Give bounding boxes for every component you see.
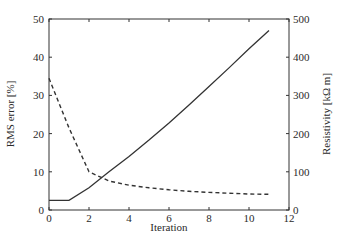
x-tick-label: 8 (206, 212, 212, 224)
y-left-tick-label: 30 (33, 89, 45, 101)
x-tick-label: 2 (86, 212, 92, 224)
y-axis-right-ticks: 0100200300400500 (286, 13, 310, 216)
y-left-tick-label: 40 (33, 51, 45, 63)
plot-frame (49, 19, 289, 210)
y-right-tick-label: 500 (293, 13, 310, 25)
y-right-tick-label: 400 (293, 51, 310, 63)
x-axis-label: Iteration (150, 221, 188, 233)
dual-axis-line-chart: 024681012 01020304050 0100200300400500 I… (0, 0, 338, 240)
y-left-tick-label: 0 (39, 204, 45, 216)
rms-error-line (49, 78, 269, 194)
y-left-tick-label: 50 (33, 13, 45, 25)
x-tick-label: 10 (244, 212, 256, 224)
y-right-tick-label: 200 (293, 128, 310, 140)
y-axis-right-label: Resistivity [kΩ m] (320, 73, 332, 155)
y-left-tick-label: 10 (33, 166, 45, 178)
x-tick-label: 0 (46, 212, 52, 224)
y-left-tick-label: 20 (33, 128, 45, 140)
resistivity-line (49, 31, 269, 201)
y-right-tick-label: 0 (293, 204, 299, 216)
x-tick-label: 4 (126, 212, 132, 224)
y-right-tick-label: 300 (293, 89, 310, 101)
y-right-tick-label: 100 (293, 166, 310, 178)
y-axis-left-label: RMS error [%] (4, 81, 16, 148)
